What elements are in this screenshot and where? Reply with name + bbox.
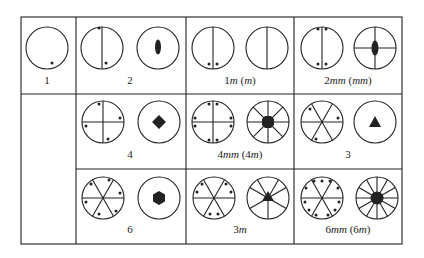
label-6: 6 [127, 223, 133, 235]
cell-4: 4 [82, 101, 180, 160]
cell-3: 3 [301, 101, 396, 160]
symmetry-elements-3m [247, 177, 289, 219]
symmetry-elements-6mm [356, 177, 398, 219]
cell-3m: 3m [193, 177, 289, 235]
triad-icon [369, 116, 381, 127]
symmetry-elements-4mm [247, 101, 289, 143]
point-group-diagram: 1 2 1m (m) [0, 0, 424, 258]
cell-1: 1 [26, 27, 68, 86]
label-1: 1 [44, 74, 50, 86]
tetrad-icon [262, 116, 274, 128]
general-positions-3 [301, 101, 343, 143]
general-positions-6 [82, 177, 124, 219]
general-positions-1 [26, 27, 68, 69]
cell-1m: 1m (m) [192, 27, 288, 87]
label-2mm: 2mm (mm) [324, 74, 372, 87]
cell-2mm: 2mm (mm) [301, 27, 396, 87]
diad-icon [372, 41, 379, 56]
hexad-icon [371, 192, 384, 205]
label-2: 2 [127, 74, 133, 86]
diad-icon [155, 40, 161, 55]
general-positions-4 [82, 101, 124, 143]
cell-6: 6 [82, 177, 180, 235]
cell-6mm: 6mm (6m) [301, 177, 398, 236]
cell-2: 2 [81, 27, 179, 87]
symmetry-elements-1m [246, 27, 288, 69]
label-6mm: 6mm (6m) [326, 223, 371, 236]
general-positions-2 [81, 27, 123, 70]
symmetry-elements-6 [138, 177, 180, 219]
label-4: 4 [127, 148, 133, 160]
symmetry-elements-3 [354, 101, 396, 143]
label-1m: 1m (m) [224, 74, 256, 87]
symmetry-elements-2mm [354, 27, 396, 69]
hexad-icon [153, 191, 165, 205]
symmetry-elements-4 [138, 101, 180, 143]
general-positions-1m [192, 27, 234, 69]
cell-4mm: 4mm (4m) [192, 101, 289, 161]
general-positions-4mm [192, 101, 234, 143]
general-positions-6mm [301, 177, 343, 219]
tetrad-icon [152, 115, 166, 129]
label-3: 3 [345, 148, 351, 160]
label-3m: 3m [233, 223, 247, 235]
table-grid [21, 17, 402, 244]
symmetry-elements-2 [137, 27, 179, 69]
label-4mm: 4mm (4m) [218, 148, 263, 161]
general-positions-2mm [301, 27, 343, 69]
general-positions-3m [193, 177, 235, 219]
